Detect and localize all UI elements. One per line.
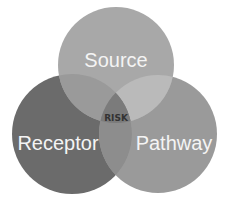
receptor-label: Receptor	[17, 132, 98, 154]
pathway-label: Pathway	[136, 132, 213, 154]
source-label: Source	[84, 49, 147, 71]
venn-diagram: Source Receptor Pathway RISK	[0, 0, 227, 201]
risk-label: RISK	[104, 113, 129, 123]
